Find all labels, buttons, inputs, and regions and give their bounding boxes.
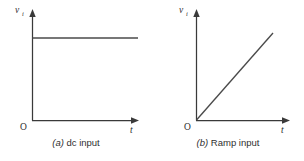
figure-root: v i t O (a) dc input v i t <box>0 0 304 161</box>
dc-y-axis-label: v <box>15 5 20 15</box>
panel-dc-input: v i t O (a) dc input <box>0 0 152 161</box>
panel-ramp-input: v i t O (b) Ramp input <box>152 0 304 161</box>
dc-vertical-axis-arrow-icon <box>29 9 35 17</box>
dc-caption-tag: (a) <box>52 137 64 148</box>
ramp-horizontal-axis-arrow-icon <box>282 117 290 123</box>
dc-input-plot: v i t O <box>0 0 152 134</box>
ramp-input-plot: v i t O <box>152 0 304 134</box>
ramp-caption-tag: (b) <box>197 137 209 148</box>
ramp-origin-label: O <box>184 122 191 132</box>
ramp-y-axis-sublabel: i <box>186 10 188 17</box>
ramp-x-axis-label: t <box>281 125 284 134</box>
ramp-vertical-axis-arrow-icon <box>193 9 199 17</box>
ramp-slope-line <box>197 33 274 120</box>
ramp-caption-text: Ramp input <box>211 137 260 148</box>
dc-origin-label: O <box>20 122 27 132</box>
dc-horizontal-axis-arrow-icon <box>131 117 139 123</box>
dc-y-axis-sublabel: i <box>22 10 24 17</box>
ramp-caption: (b) Ramp input <box>152 136 304 149</box>
dc-x-axis-label: t <box>130 125 133 134</box>
dc-caption-text: dc input <box>66 137 99 148</box>
ramp-y-axis-label: v <box>179 5 184 15</box>
dc-caption: (a) dc input <box>0 136 152 149</box>
